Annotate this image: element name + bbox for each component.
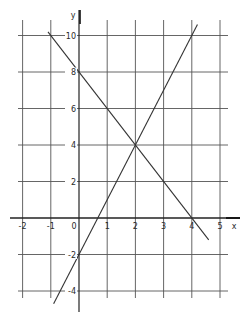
tick-labels: -2-1012345-4-2246810xy bbox=[19, 11, 237, 296]
y-tick-label: 4 bbox=[71, 141, 76, 150]
series-line-2 bbox=[48, 32, 209, 240]
x-tick-label: 4 bbox=[189, 222, 194, 231]
x-tick-label: 3 bbox=[161, 222, 166, 231]
y-tick-label: -4 bbox=[68, 287, 76, 296]
x-tick-label: 5 bbox=[217, 222, 222, 231]
x-tick-label: -1 bbox=[47, 222, 55, 231]
grid-lines bbox=[18, 20, 228, 298]
x-tick-label: -2 bbox=[19, 222, 27, 231]
y-tick-label: 8 bbox=[71, 68, 76, 77]
series-lines bbox=[48, 25, 209, 304]
x-tick-label: 2 bbox=[133, 222, 138, 231]
y-tick-label: -2 bbox=[68, 251, 76, 260]
y-axis-label: y bbox=[71, 11, 76, 20]
axes bbox=[10, 10, 240, 312]
y-tick-label: 2 bbox=[71, 178, 76, 187]
line-chart: -2-1012345-4-2246810xy bbox=[0, 0, 246, 325]
x-tick-label: 0 bbox=[71, 222, 76, 231]
y-tick-label: 10 bbox=[66, 32, 76, 41]
y-tick-label: 6 bbox=[71, 105, 76, 114]
x-axis-label: x bbox=[232, 222, 237, 231]
x-tick-label: 1 bbox=[105, 222, 110, 231]
